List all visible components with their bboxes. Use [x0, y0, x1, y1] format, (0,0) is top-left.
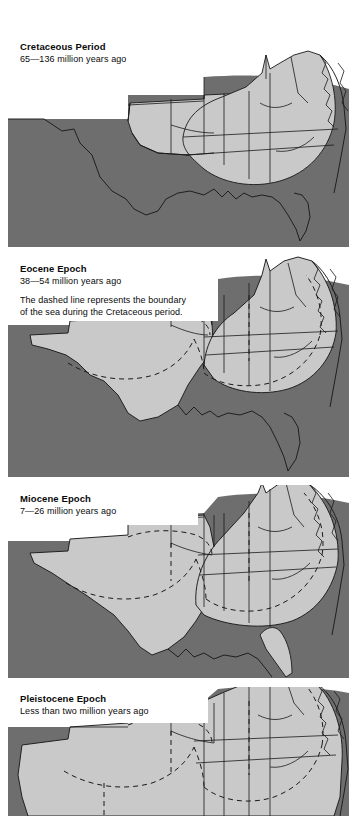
panel-subtitle-cretaceous: 65—136 million years ago	[20, 53, 126, 65]
panel-title-miocene: Miocene Epoch	[20, 493, 116, 505]
caption-pleistocene: Pleistocene Epoch Less than two million …	[20, 693, 149, 717]
panel-title-pleistocene: Pleistocene Epoch	[20, 693, 149, 705]
panel-title-eocene: Eocene Epoch	[20, 263, 186, 275]
figure-sheet: Cretaceous Period 65—136 million years a…	[0, 0, 361, 816]
panel-note-line-2: of the sea during the Cretaceous period.	[20, 307, 186, 319]
panel-subtitle-miocene: 7—26 million years ago	[20, 505, 116, 517]
map-panel-pleistocene: Pleistocene Epoch Less than two million …	[8, 687, 349, 816]
caption-cretaceous: Cretaceous Period 65—136 million years a…	[20, 41, 126, 65]
caption-miocene: Miocene Epoch 7—26 million years ago	[20, 493, 116, 517]
panel-title-cretaceous: Cretaceous Period	[20, 41, 126, 53]
panel-subtitle-eocene: 38—54 million years ago	[20, 275, 186, 287]
panel-note-line-1: The dashed line represents the boundary	[20, 295, 186, 307]
map-panel-eocene: Eocene Epoch 38—54 million years ago The…	[8, 255, 349, 477]
map-panel-cretaceous: Cretaceous Period 65—136 million years a…	[8, 33, 349, 247]
map-panel-miocene: Miocene Epoch 7—26 million years ago	[8, 485, 349, 678]
caption-eocene: Eocene Epoch 38—54 million years ago The…	[20, 263, 186, 318]
panel-subtitle-pleistocene: Less than two million years ago	[20, 705, 149, 717]
